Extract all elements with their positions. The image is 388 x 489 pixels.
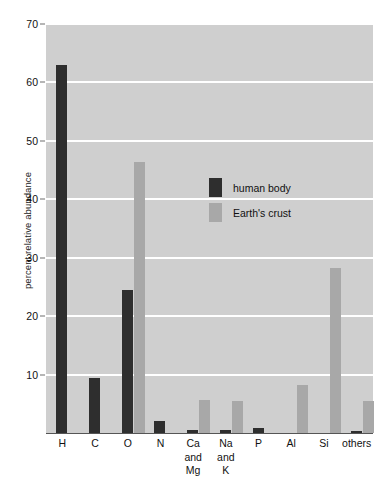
y-tick-mark xyxy=(40,374,45,375)
legend-item: Earth's crust xyxy=(209,200,291,225)
bars-layer xyxy=(46,24,373,433)
x-tick-label: others xyxy=(340,437,373,451)
x-tick-label: O xyxy=(111,437,144,451)
bar xyxy=(363,401,374,433)
bar xyxy=(134,162,145,433)
bar xyxy=(330,268,341,433)
bar xyxy=(297,385,308,433)
y-tick-label: 50 xyxy=(26,135,38,147)
bar-chart: percent relative abundance 1020304050607… xyxy=(0,0,388,489)
legend-swatch-icon xyxy=(209,178,222,197)
plot-area: human bodyEarth's crust xyxy=(46,24,373,433)
y-tick-label: 40 xyxy=(26,193,38,205)
bar xyxy=(199,400,210,433)
y-tick-label: 30 xyxy=(26,252,38,264)
y-tick-label: 60 xyxy=(26,76,38,88)
y-tick-mark xyxy=(40,199,45,200)
y-axis-ticks: 10203040506070 xyxy=(0,0,46,489)
x-tick-label: H xyxy=(46,437,79,451)
y-tick-mark xyxy=(40,24,45,25)
legend-label: Earth's crust xyxy=(233,207,291,219)
x-tick-label: N xyxy=(144,437,177,451)
y-tick-label: 20 xyxy=(26,310,38,322)
bar xyxy=(232,401,243,433)
x-tick-label: NaandK xyxy=(210,437,243,478)
x-axis-ticks: HCONCaandMgNaandKPAlSiothers xyxy=(46,437,373,489)
x-tick-label: Al xyxy=(275,437,308,451)
bar xyxy=(89,378,100,434)
x-axis-line xyxy=(46,433,373,434)
legend-swatch-icon xyxy=(209,203,222,222)
y-tick-mark xyxy=(40,257,45,258)
bar xyxy=(56,65,67,433)
y-tick-mark xyxy=(40,316,45,317)
y-tick-label: 70 xyxy=(26,18,38,30)
y-tick-mark xyxy=(40,140,45,141)
x-tick-label: P xyxy=(242,437,275,451)
x-tick-label: CaandMg xyxy=(177,437,210,478)
chart-legend: human bodyEarth's crust xyxy=(209,175,291,225)
x-tick-label: C xyxy=(79,437,112,451)
bar xyxy=(122,290,133,433)
y-tick-mark xyxy=(40,82,45,83)
legend-label: human body xyxy=(233,182,291,194)
legend-item: human body xyxy=(209,175,291,200)
y-tick-label: 10 xyxy=(26,369,38,381)
x-tick-label: Si xyxy=(308,437,341,451)
bar xyxy=(154,421,165,433)
